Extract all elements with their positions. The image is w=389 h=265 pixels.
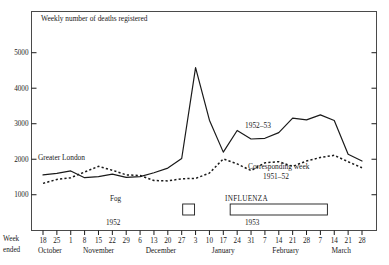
month-label: December	[146, 246, 177, 255]
month-label: March	[332, 246, 352, 255]
x-tick-label: 28	[358, 237, 366, 245]
x-tick-label: 22	[109, 237, 117, 245]
fog-label: Fog	[110, 196, 121, 203]
deaths-registered-line-chart: 10002000300040005000 1825181522296132027…	[0, 0, 389, 265]
x-tick-label: 31	[247, 237, 255, 245]
x-tick-label: 6	[138, 237, 142, 245]
x-tick-label: 1	[69, 237, 73, 245]
x-tick-label: 17	[220, 237, 228, 245]
x-tick-label: 14	[275, 237, 283, 245]
chart-figure: 10002000300040005000 1825181522296132027…	[0, 0, 389, 265]
figure-background	[0, 0, 389, 265]
x-tick-label: 13	[150, 237, 158, 245]
x-tick-label: 21	[345, 237, 353, 245]
x-tick-label: 8	[83, 237, 87, 245]
x-tick-label: 27	[178, 237, 186, 245]
y-tick-label: 4000	[14, 85, 29, 93]
x-tick-label: 7	[319, 237, 323, 245]
x-tick-label: 7	[263, 237, 267, 245]
influenza-year-label: 1953	[245, 220, 259, 227]
y-tick-label: 2000	[14, 156, 29, 164]
x-tick-label: 14	[331, 237, 339, 245]
chart-title: Weekly number of deaths registered	[41, 15, 148, 22]
month-label: February	[272, 246, 299, 255]
month-label: November	[83, 246, 115, 255]
fog-event-box	[183, 204, 195, 215]
x-tick-label: 29	[123, 237, 131, 245]
fog-year-label: 1952	[106, 220, 120, 227]
y-tick-label: 3000	[14, 120, 29, 128]
x-tick-label: 20	[164, 237, 172, 245]
axis-caption-week: Week	[3, 236, 19, 243]
x-tick-label: 3	[194, 237, 198, 245]
influenza-label: INFLUENZA	[225, 196, 268, 203]
x-tick-label: 25	[53, 237, 61, 245]
x-tick-label: 28	[303, 237, 311, 245]
x-tick-label: 10	[206, 237, 214, 245]
month-label: January	[212, 246, 235, 255]
y-tick-label: 5000	[14, 49, 29, 57]
axis-caption-ended: ended	[3, 247, 20, 254]
x-tick-label: 24	[234, 237, 242, 245]
x-tick-label: 21	[289, 237, 297, 245]
y-tick-label: 1000	[14, 191, 29, 199]
annotation-series-1952-53: 1952–53	[245, 122, 271, 129]
x-tick-label: 18	[39, 237, 47, 245]
x-tick-label: 15	[95, 237, 103, 245]
annotation-greater-london: Greater London	[38, 154, 85, 161]
annotation-corresponding-week: Corresponding week	[248, 163, 309, 170]
month-label: October	[38, 246, 62, 255]
influenza-event-box	[230, 204, 327, 215]
annotation-corresponding-week-years: 1951–52	[263, 173, 289, 180]
